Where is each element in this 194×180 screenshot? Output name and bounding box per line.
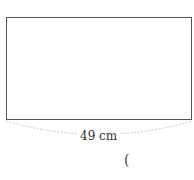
rectangle-diagram	[0, 0, 194, 180]
rectangle	[7, 18, 192, 120]
answer-parenthesis: (	[124, 152, 129, 168]
width-label: 49 cm	[78, 129, 119, 143]
